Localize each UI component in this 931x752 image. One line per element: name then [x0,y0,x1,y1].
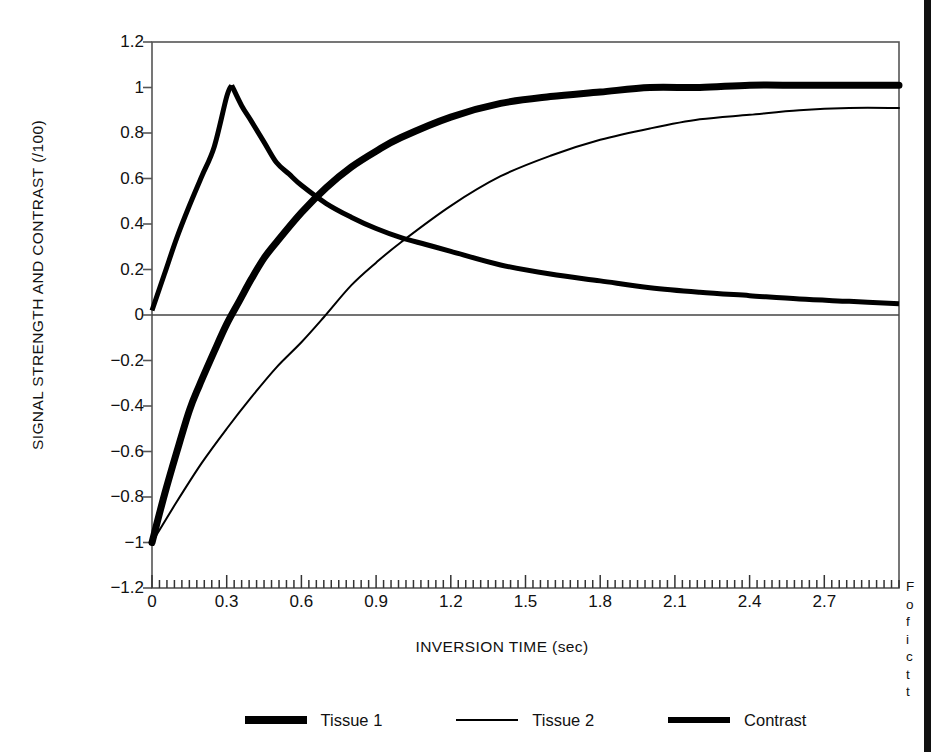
legend-swatch [456,719,518,721]
plot-area [0,0,931,752]
legend-swatch [668,717,730,723]
figure: SIGNAL STRENGTH AND CONTRAST (/100) 1.21… [0,0,931,752]
series-line-tissue-1 [152,85,899,542]
legend-item: Tissue 2 [456,711,594,730]
legend-label: Contrast [744,711,806,730]
legend-label: Tissue 2 [532,711,594,730]
legend-item: Tissue 1 [245,711,383,730]
legend-item: Contrast [668,711,806,730]
series-line-tissue-2 [152,108,899,543]
series-line-contrast-rise [152,85,232,310]
page-edge-artifact [924,0,931,752]
legend-label: Tissue 1 [321,711,383,730]
series-line-contrast-fall [232,85,899,303]
chart-legend: Tissue 1Tissue 2Contrast [152,700,899,740]
legend-swatch [245,716,307,724]
